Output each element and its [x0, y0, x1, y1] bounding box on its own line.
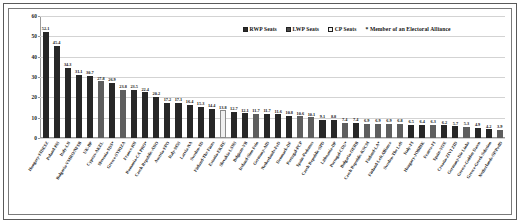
bar-value-label: 15.3: [197, 102, 205, 106]
bar-value-label: 3.9: [497, 125, 502, 129]
bar-value-label: 27.8: [97, 77, 105, 81]
bar: 9.1: [319, 120, 325, 139]
bar: 30.7: [87, 76, 93, 138]
bar: 7.4: [353, 123, 359, 138]
bar-value-label: 9.1: [320, 115, 325, 119]
bar-value-label: 6.9: [375, 119, 380, 123]
bar-slot: 31.1: [73, 16, 84, 138]
y-tick-label: 50: [32, 33, 37, 39]
bar-slot: 11.7: [262, 16, 273, 138]
bar-value-label: 5.7: [453, 122, 458, 126]
y-tick-label: 10: [32, 115, 37, 121]
bar-slot: 17.1: [173, 16, 184, 138]
bar-value-label: 30.7: [86, 71, 94, 75]
bar-value-label: 11.7: [263, 109, 270, 113]
bar-slot: 10.1: [306, 16, 317, 138]
bar-value-label: 6.9: [386, 119, 391, 123]
bar-slot: 10.6: [295, 16, 306, 138]
bar-slot: 6.9: [383, 16, 394, 138]
bar: 7.4: [342, 123, 348, 138]
bar-series: 52.145.434.331.130.727.826.923.823.522.4…: [40, 16, 505, 138]
bar-value-label: 20.2: [153, 92, 161, 96]
bar-value-label: 12.1: [241, 109, 249, 113]
gridline: [40, 138, 505, 139]
bar-value-label: 26.9: [108, 78, 116, 82]
bar-value-label: 11.7: [252, 109, 259, 113]
bar: 5.7: [452, 126, 458, 138]
category-slot: Netherlands-SP/PvdD: [494, 140, 505, 210]
y-tick-label: 20: [32, 94, 37, 100]
bar: 13.8: [220, 110, 226, 138]
bar-value-label: 34.3: [64, 63, 72, 67]
bar-value-label: 6.3: [431, 120, 436, 124]
bar-value-label: 17.2: [164, 98, 172, 102]
bar: 14.4: [209, 109, 215, 138]
bar-value-label: 45.4: [53, 41, 61, 45]
bar: 23.5: [131, 90, 137, 138]
bar-slot: 10.8: [284, 16, 295, 138]
bar: 8.8: [331, 120, 337, 138]
bar-slot: 6.9: [361, 16, 372, 138]
bar: 6.9: [386, 124, 392, 138]
bar-slot: 11.6: [273, 16, 284, 138]
bar-value-label: 8.8: [331, 115, 336, 119]
bar-value-label: 13.8: [219, 106, 227, 110]
bar: 6.8: [397, 124, 403, 138]
bar: 17.2: [164, 103, 170, 138]
bar: 34.3: [65, 68, 71, 138]
bar-value-label: 22.4: [141, 88, 149, 92]
bar-slot: 26.9: [106, 16, 117, 138]
y-tick-label: 30: [32, 74, 37, 80]
bar: 6.5: [408, 125, 414, 138]
bar-slot: 17.2: [162, 16, 173, 138]
bar: 6.3: [430, 125, 436, 138]
x-axis-category-labels: Hungary-FIDESZPoland-PiSItaly-LNBulgaria…: [40, 140, 505, 210]
bar-slot: 22.4: [140, 16, 151, 138]
bar-value-label: 16.4: [186, 100, 194, 104]
bar-slot: 3.9: [494, 16, 505, 138]
bar: 11.7: [264, 114, 270, 138]
bar: 22.4: [142, 92, 148, 138]
bar-value-label: 31.1: [75, 70, 83, 74]
bar-slot: 20.2: [151, 16, 162, 138]
bar: 15.3: [198, 107, 204, 138]
bar-slot: 30.7: [84, 16, 95, 138]
y-tick-mark: [38, 138, 40, 139]
bar-value-label: 6.9: [364, 119, 369, 123]
bar-slot: 4.9: [472, 16, 483, 138]
bar-slot: 15.3: [195, 16, 206, 138]
plot-area: 0102030405060 52.145.434.331.130.727.826…: [40, 16, 505, 138]
bar-value-label: 52.1: [42, 27, 50, 31]
bar-slot: 4.2: [483, 16, 494, 138]
bar: 6.4: [419, 125, 425, 138]
bar: 4.2: [486, 129, 492, 138]
bar: 6.9: [375, 124, 381, 138]
bar-slot: 6.9: [372, 16, 383, 138]
bar: 23.8: [120, 90, 126, 138]
bar-slot: 34.3: [62, 16, 73, 138]
bar-slot: 6.3: [428, 16, 439, 138]
bar-slot: 23.8: [118, 16, 129, 138]
bar-slot: 7.4: [350, 16, 361, 138]
bar: 31.1: [76, 75, 82, 138]
bar-value-label: 12.7: [230, 107, 238, 111]
bar: 11.6: [275, 114, 281, 138]
bar-slot: 8.8: [328, 16, 339, 138]
bar: 6.2: [441, 125, 447, 138]
bar-value-label: 10.6: [297, 112, 305, 116]
bar-value-label: 4.9: [475, 123, 480, 127]
bar-slot: 7.4: [339, 16, 350, 138]
bar-slot: 6.8: [395, 16, 406, 138]
bar-value-label: 6.4: [420, 120, 425, 124]
bar: 27.8: [98, 81, 104, 138]
bar: 5.3: [463, 127, 469, 138]
bar-slot: 11.7: [250, 16, 261, 138]
bar-slot: 23.5: [129, 16, 140, 138]
bar-slot: 27.8: [95, 16, 106, 138]
bar-value-label: 11.6: [275, 110, 282, 114]
bar: 12.7: [231, 112, 237, 138]
bar-value-label: 6.5: [408, 120, 413, 124]
bar: 10.1: [308, 117, 314, 138]
bar-slot: 14.4: [206, 16, 217, 138]
bar-slot: 45.4: [51, 16, 62, 138]
